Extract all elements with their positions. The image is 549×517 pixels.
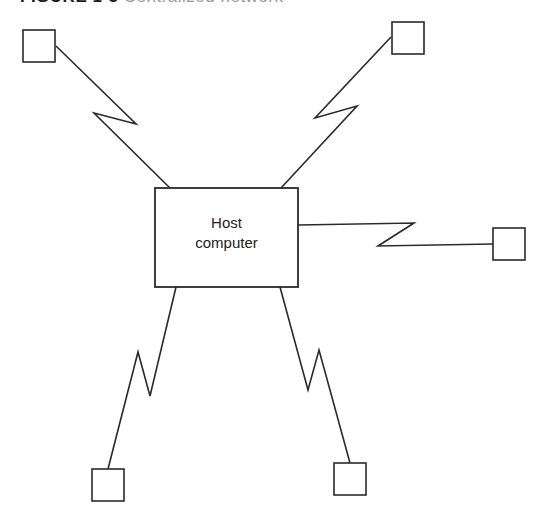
terminal-top-right <box>392 22 424 54</box>
terminal-bottom-left <box>92 469 124 501</box>
host-label-line1: Host <box>155 213 298 233</box>
link-top-left <box>56 46 172 190</box>
host-computer-label: Host computer <box>155 213 298 253</box>
link-top-right <box>281 37 391 188</box>
link-right <box>298 223 493 246</box>
link-bottom-right <box>280 287 350 463</box>
terminal-top-left <box>23 30 55 62</box>
terminal-right <box>493 228 525 260</box>
terminal-bottom-right <box>334 463 366 495</box>
network-diagram <box>0 0 549 517</box>
host-label-line2: computer <box>155 233 298 253</box>
link-bottom-left <box>108 287 176 469</box>
